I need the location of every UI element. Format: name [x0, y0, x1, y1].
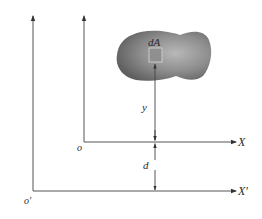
- label-dA: dA: [148, 36, 161, 48]
- label-y: y: [141, 101, 147, 113]
- area-shape: [117, 31, 212, 81]
- label-axis-x: X: [237, 135, 246, 149]
- parallel-axis-diagram: dA y d o o′ X X′: [0, 0, 262, 219]
- label-origin: o: [77, 142, 82, 153]
- area-element-dA: [149, 48, 162, 62]
- label-origin-prime: o′: [24, 195, 32, 206]
- label-axis-x-prime: X′: [237, 184, 248, 198]
- label-d: d: [143, 159, 149, 171]
